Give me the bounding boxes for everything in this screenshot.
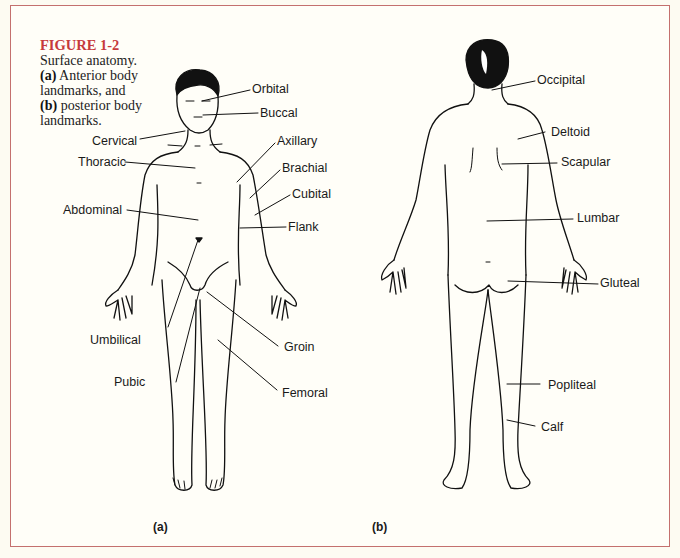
label-cubital: Cubital <box>292 187 331 201</box>
label-abdominal: Abdominal <box>63 203 122 217</box>
label-umbilical: Umbilical <box>90 333 141 347</box>
label-flank: Flank <box>288 220 319 234</box>
label-calf: Calf <box>541 420 563 434</box>
label-femoral: Femoral <box>282 386 328 400</box>
label-brachial: Brachial <box>282 161 327 175</box>
label-gluteal: Gluteal <box>600 276 640 290</box>
label-axillary: Axillary <box>277 134 317 148</box>
label-thoracic: Thoracic <box>78 155 126 169</box>
label-pubic: Pubic <box>114 375 145 389</box>
label-buccal: Buccal <box>260 106 298 120</box>
label-scapular: Scapular <box>561 155 610 169</box>
label-popliteal: Popliteal <box>548 378 596 392</box>
sublabel-a: (a) <box>153 520 168 534</box>
label-lumbar: Lumbar <box>577 211 619 225</box>
label-cervical: Cervical <box>92 134 137 148</box>
label-deltoid: Deltoid <box>551 125 590 139</box>
anterior-body-drawing <box>106 70 297 491</box>
label-groin: Groin <box>284 340 315 354</box>
label-orbital: Orbital <box>252 82 289 96</box>
sublabel-b: (b) <box>372 520 387 534</box>
label-occipital: Occipital <box>537 73 585 87</box>
anterior-leader-lines <box>125 90 290 390</box>
